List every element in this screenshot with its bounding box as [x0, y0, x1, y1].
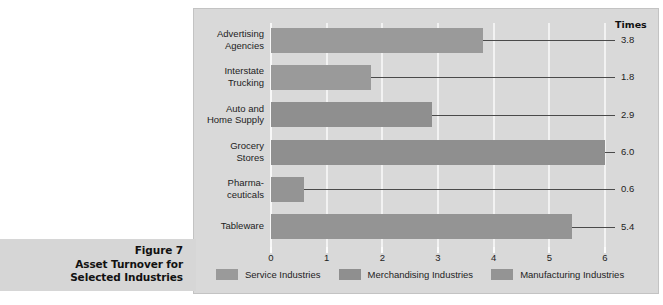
category-label: InterstateTrucking: [178, 65, 264, 88]
figure-number: Figure 7: [6, 244, 183, 258]
legend-item: Merchandising Industries: [339, 269, 474, 280]
chart-legend: Service IndustriesMerchandising Industri…: [216, 266, 642, 282]
legend-label: Service Industries: [245, 269, 321, 280]
leader-line: [572, 227, 615, 228]
x-axis-tick-label: 4: [484, 252, 504, 263]
legend-swatch: [216, 269, 238, 280]
category-label: Tableware: [178, 220, 264, 232]
leader-line: [605, 152, 615, 153]
value-label: 6.0: [621, 146, 634, 157]
plot-area: AdvertisingAgenciesInterstateTruckingAut…: [194, 9, 658, 293]
category-label-line: Stores: [178, 152, 264, 164]
category-label-line: Trucking: [178, 77, 264, 89]
x-axis-tick-label: 1: [317, 252, 337, 263]
legend-item: Manufacturing Industries: [491, 269, 624, 280]
x-axis-tick-label: 6: [595, 252, 615, 263]
category-label: Auto andHome Supply: [178, 103, 264, 126]
leader-line: [483, 40, 615, 41]
legend-item: Service Industries: [216, 269, 321, 280]
figure-title-line-2: Selected Industries: [6, 271, 183, 285]
gridline-6: [604, 23, 606, 247]
legend-label: Manufacturing Industries: [520, 269, 624, 280]
x-axis-tick-label: 2: [372, 252, 392, 263]
category-label-line: ceuticals: [178, 189, 264, 201]
chart-panel: AdvertisingAgenciesInterstateTruckingAut…: [193, 8, 659, 294]
value-label: 3.8: [621, 34, 634, 45]
value-axis-header: Times: [615, 19, 647, 30]
category-label-line: Agencies: [178, 40, 264, 52]
value-label: 5.4: [621, 221, 634, 232]
category-label-line: Advertising: [178, 28, 264, 40]
category-label-line: Auto and: [178, 103, 264, 115]
category-label-line: Tableware: [178, 220, 264, 232]
x-axis-tick-label: 3: [428, 252, 448, 263]
value-label: 0.6: [621, 183, 634, 194]
leader-line: [432, 115, 615, 116]
value-label: 1.8: [621, 71, 634, 82]
category-label: Pharma-ceuticals: [178, 177, 264, 200]
legend-label: Merchandising Industries: [368, 269, 474, 280]
figure-caption-block: Figure 7 Asset Turnover for Selected Ind…: [0, 239, 196, 291]
bar: [271, 140, 605, 165]
category-label-line: Pharma-: [178, 177, 264, 189]
value-label: 2.9: [621, 109, 634, 120]
category-label: AdvertisingAgencies: [178, 28, 264, 51]
bar: [271, 28, 483, 53]
category-label-line: Interstate: [178, 65, 264, 77]
category-label-line: Home Supply: [178, 114, 264, 126]
legend-swatch: [491, 269, 513, 280]
legend-swatch: [339, 269, 361, 280]
figure-title-line-1: Asset Turnover for: [6, 258, 183, 272]
category-label: GroceryStores: [178, 140, 264, 163]
bar: [271, 214, 572, 239]
leader-line: [371, 77, 615, 78]
category-label-line: Grocery: [178, 140, 264, 152]
bar: [271, 177, 304, 202]
bar: [271, 65, 371, 90]
x-axis-tick-label: 0: [261, 252, 281, 263]
bar: [271, 102, 432, 127]
leader-line: [304, 189, 615, 190]
x-axis-tick-label: 5: [539, 252, 559, 263]
